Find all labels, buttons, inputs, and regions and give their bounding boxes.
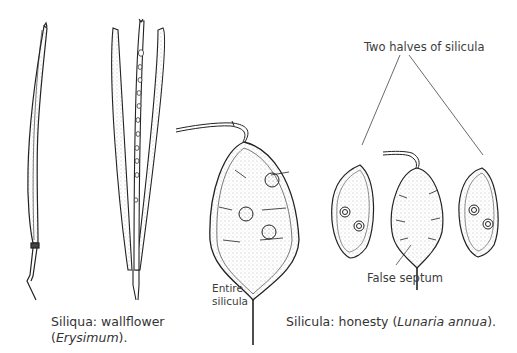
label-entire-silicula: Entire silicula [212, 282, 248, 308]
caption-siliqua-line1: Siliqua: wallflower [51, 314, 164, 330]
caption-siliqua: Siliqua: wallflower (Erysimum). [51, 314, 164, 346]
paren-close: ). [119, 330, 128, 345]
label-entire-line2: silicula [212, 295, 248, 308]
caption-silicula-suffix: ). [487, 314, 496, 329]
caption-siliqua-line2: (Erysimum). [51, 330, 164, 346]
false-septum-drawing [383, 151, 443, 290]
label-false-septum: False septum [367, 271, 443, 286]
caption-silicula-prefix: Silicula: honesty ( [286, 314, 397, 329]
entire-silicula-drawing [176, 121, 299, 345]
genus-name: Erysimum [56, 330, 119, 345]
caption-silicula: Silicula: honesty (Lunaria annua). [286, 314, 496, 330]
label-two-halves: Two halves of silicula [364, 40, 484, 55]
closed-siliqua-drawing [27, 23, 47, 300]
right-half-silicula-drawing [459, 168, 498, 257]
species-name: Lunaria annua [397, 314, 487, 329]
opened-siliqua-drawing [112, 19, 165, 300]
label-entire-line1: Entire [212, 282, 248, 295]
left-half-silicula-drawing [332, 165, 374, 258]
